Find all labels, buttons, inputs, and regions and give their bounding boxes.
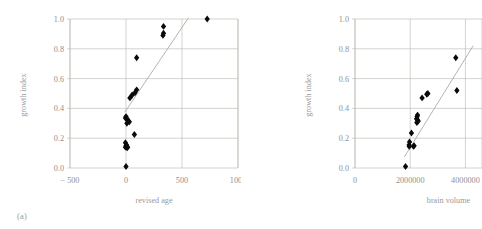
x-axis-tick-label: 4000000 bbox=[451, 176, 480, 185]
data-point bbox=[419, 95, 424, 102]
data-point bbox=[454, 87, 459, 94]
scatter-plot-b: 0.00.20.40.60.81.0020000004000000brain v… bbox=[241, 0, 482, 205]
data-point bbox=[161, 23, 166, 30]
data-point bbox=[403, 163, 408, 170]
data-point bbox=[205, 16, 210, 23]
y-axis-tick-label: 1.0 bbox=[339, 15, 349, 24]
y-axis-title: growth index bbox=[19, 73, 28, 116]
y-axis-tick-label: 0.0 bbox=[339, 164, 349, 173]
data-point bbox=[134, 54, 139, 61]
x-axis-tick-label: 0 bbox=[353, 176, 357, 185]
x-axis-tick-label: 500 bbox=[176, 176, 188, 185]
y-axis-tick-label: 0.4 bbox=[54, 104, 64, 113]
panel-a-caption: (a) bbox=[17, 211, 27, 221]
y-axis-tick-label: 0.6 bbox=[54, 75, 64, 84]
scatter-plot-a: 0.00.20.40.60.81.0− 50005001000revised a… bbox=[0, 0, 241, 205]
y-axis-tick-label: 0.8 bbox=[54, 45, 64, 54]
x-axis-tick-label: 0 bbox=[124, 176, 128, 185]
figure-two-scatter-panels: 0.00.20.40.60.81.0− 50005001000revised a… bbox=[0, 0, 482, 229]
data-point bbox=[409, 130, 414, 137]
data-point bbox=[453, 54, 458, 61]
y-axis-tick-label: 0.6 bbox=[339, 75, 349, 84]
y-axis-tick-label: 1.0 bbox=[54, 15, 64, 24]
trend-line bbox=[125, 18, 188, 112]
x-axis-tick-label: 2000000 bbox=[396, 176, 425, 185]
y-axis-tick-label: 0.2 bbox=[54, 134, 64, 143]
y-axis-tick-label: 0.4 bbox=[339, 104, 349, 113]
y-axis-tick-label: 0.8 bbox=[339, 45, 349, 54]
panel-a: 0.00.20.40.60.81.0− 50005001000revised a… bbox=[0, 0, 241, 229]
panel-b: 0.00.20.40.60.81.0020000004000000brain v… bbox=[241, 0, 482, 229]
trend-line bbox=[404, 46, 473, 157]
x-axis-title: revised age bbox=[135, 196, 172, 205]
data-point bbox=[132, 131, 137, 138]
x-axis-tick-label: 1000 bbox=[230, 176, 241, 185]
x-axis-tick-label: − 500 bbox=[61, 176, 80, 185]
y-axis-tick-label: 0.2 bbox=[339, 134, 349, 143]
y-axis-title: growth index bbox=[304, 73, 313, 116]
y-axis-tick-label: 0.0 bbox=[54, 164, 64, 173]
x-axis-title: brain volume bbox=[427, 196, 471, 205]
data-point bbox=[123, 163, 128, 170]
